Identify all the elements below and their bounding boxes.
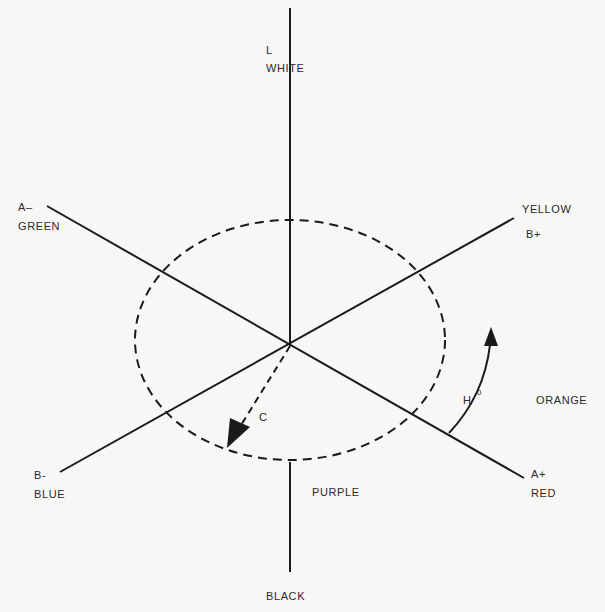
a-positive-symbol: A+ — [531, 468, 546, 480]
hue-arrowhead-icon — [484, 327, 498, 346]
hue-arc — [449, 345, 490, 433]
cielab-diagram: L WHITE BLACK A– GREEN A+ RED YELLOW B+ … — [0, 0, 605, 612]
lightness-symbol: L — [266, 44, 273, 56]
chroma-arrowhead-icon — [227, 418, 250, 448]
black-label: BLACK — [266, 590, 305, 602]
a-axis-green-red — [47, 206, 524, 478]
orange-label: ORANGE — [536, 394, 587, 406]
blue-label: BLUE — [34, 488, 65, 500]
hue-superscript: 0 — [477, 388, 482, 397]
white-label: WHITE — [266, 62, 304, 74]
b-positive-symbol: B+ — [526, 228, 541, 240]
purple-label: PURPLE — [312, 486, 360, 498]
a-negative-symbol: A– — [18, 201, 33, 213]
red-label: RED — [531, 487, 556, 499]
yellow-label: YELLOW — [522, 203, 571, 215]
hue-symbol: H — [463, 394, 472, 406]
chroma-symbol: C — [259, 411, 268, 423]
green-label: GREEN — [18, 220, 60, 232]
b-negative-symbol: B- — [34, 469, 46, 481]
